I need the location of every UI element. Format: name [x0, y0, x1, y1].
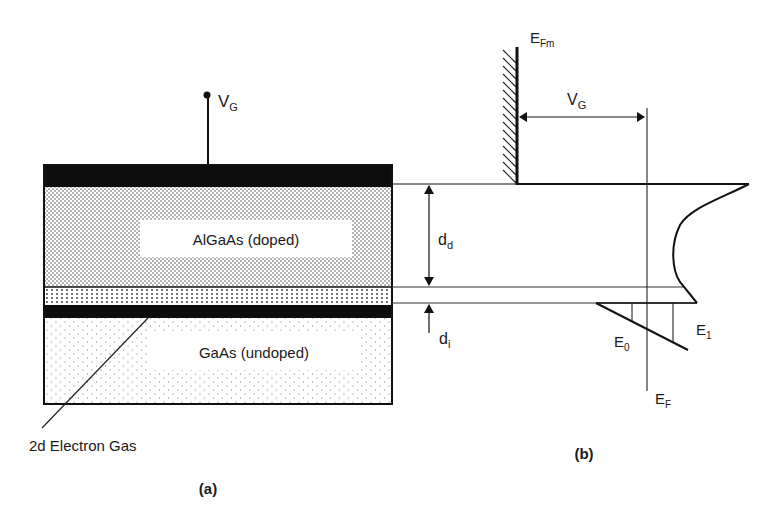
- gate-metal-layer: [43, 165, 392, 187]
- 2deg-channel-layer: [43, 305, 392, 318]
- gate-terminal: VG: [204, 92, 238, 167]
- gaas-label: GaAs (undoped): [199, 344, 309, 361]
- panel-a-device-cross-section: VG AlGaAs (doped) GaAs (undoped) 2d Elec…: [29, 92, 697, 498]
- di-label: di: [439, 330, 450, 350]
- vg-gap-label: VG: [567, 91, 586, 111]
- algaas-label: AlGaAs (doped): [193, 231, 300, 248]
- triangular-well-edge: [596, 303, 688, 350]
- panel-b-band-diagram: EFm VG EF E0 E1 (b): [503, 29, 749, 462]
- spacer-layer: [44, 288, 391, 305]
- conduction-band-curve: [673, 184, 749, 303]
- dimension-markers: dd di: [392, 184, 697, 350]
- 2deg-callout-label: 2d Electron Gas: [29, 437, 137, 454]
- hemt-diagram: VG AlGaAs (doped) GaAs (undoped) 2d Elec…: [0, 0, 782, 526]
- panel-a-caption: (a): [199, 480, 217, 497]
- metal-hatch: [503, 50, 516, 183]
- e0-label: E0: [614, 333, 630, 353]
- e1-label: E1: [696, 321, 712, 341]
- metal-fermi-label: EFm: [530, 29, 554, 49]
- gate-voltage-label: VG: [218, 92, 238, 113]
- dd-label: dd: [438, 231, 453, 251]
- fermi-level-label: EF: [655, 390, 671, 410]
- panel-b-caption: (b): [574, 445, 593, 462]
